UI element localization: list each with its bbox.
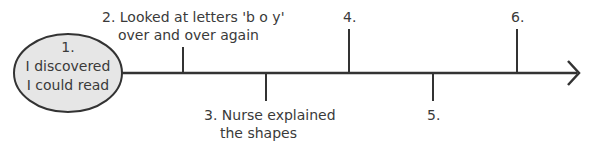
start-node-label: 1. I discovered I could read	[14, 38, 122, 95]
event-2-line2: over and over again	[102, 26, 285, 44]
event-3-line1: 3. Nurse explained	[204, 106, 336, 124]
event-3-line2: the shapes	[204, 124, 336, 142]
event-2-line1: 2. Looked at letters 'b o y'	[102, 8, 285, 26]
event-5-label: 5.	[427, 106, 440, 124]
start-node-line1: I discovered	[14, 57, 122, 76]
event-4-label: 4.	[343, 8, 356, 26]
event-2-label: 2. Looked at letters 'b o y' over and ov…	[102, 8, 285, 44]
event-3-label: 3. Nurse explained the shapes	[204, 106, 336, 142]
start-node-line2: I could read	[14, 76, 122, 95]
event-6-label: 6.	[511, 8, 524, 26]
